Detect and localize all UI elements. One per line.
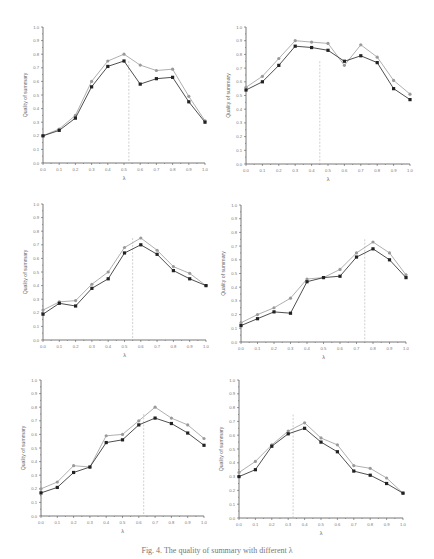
y-axis-label: Quality of summary: [220, 251, 226, 296]
x-tick-label: 0.4: [309, 168, 315, 173]
x-tick-label: 0.2: [276, 168, 282, 173]
square-marker: [385, 482, 388, 485]
series-lower-line: [241, 249, 406, 326]
y-tick-label: 0.7: [236, 66, 242, 71]
x-tick-label: 0.4: [304, 346, 310, 351]
square-marker: [105, 441, 108, 444]
circle-marker: [287, 429, 290, 432]
circle-marker: [155, 69, 158, 72]
series-upper-line: [43, 54, 205, 136]
y-tick-label: 0.5: [231, 271, 237, 276]
x-tick-label: 0.7: [351, 522, 357, 527]
x-tick-label: 0.6: [136, 520, 142, 525]
square-marker: [171, 76, 174, 79]
y-tick-label: 0.9: [33, 38, 39, 43]
square-marker: [170, 422, 173, 425]
x-tick-label: 0.0: [243, 168, 249, 173]
x-axis-label: λ: [320, 530, 323, 536]
square-marker: [256, 317, 259, 320]
x-tick-label: 0.2: [73, 344, 79, 349]
y-tick-label: 0.1: [236, 148, 242, 153]
x-tick-label: 0.3: [89, 167, 95, 172]
x-tick-label: 0.8: [170, 344, 176, 349]
square-marker: [90, 85, 93, 88]
x-tick-label: 0.3: [285, 522, 291, 527]
square-marker: [58, 129, 61, 132]
y-tick-label: 0.7: [33, 242, 39, 247]
circle-marker: [202, 437, 205, 440]
square-marker: [244, 88, 247, 91]
x-tick-label: 0.6: [138, 344, 144, 349]
square-marker: [319, 441, 322, 444]
circle-marker: [105, 434, 108, 437]
square-marker: [188, 277, 191, 280]
square-marker: [355, 255, 358, 258]
y-tick-label: 0.4: [33, 106, 39, 111]
square-marker: [106, 65, 109, 68]
circle-marker: [336, 443, 339, 446]
circle-marker: [294, 39, 297, 42]
x-tick-label: 0.5: [121, 167, 127, 172]
circle-marker: [106, 59, 109, 62]
circle-marker: [107, 270, 110, 273]
circle-marker: [90, 80, 93, 83]
y-tick-label: 1.0: [33, 25, 39, 30]
y-tick-label: 0.0: [229, 516, 235, 521]
square-marker: [270, 445, 273, 448]
square-marker: [401, 492, 404, 495]
square-marker: [139, 243, 142, 246]
x-tick-label: 0.9: [391, 168, 397, 173]
x-tick-label: 1.0: [400, 522, 406, 527]
square-marker: [303, 427, 306, 430]
x-tick-label: 0.7: [153, 167, 159, 172]
square-marker: [203, 121, 206, 124]
x-tick-label: 0.2: [269, 522, 275, 527]
x-tick-label: 1.0: [203, 344, 209, 349]
x-tick-label: 0.6: [334, 522, 340, 527]
x-tick-label: 0.8: [367, 522, 373, 527]
square-marker: [305, 280, 308, 283]
y-tick-label: 0.9: [33, 215, 39, 220]
circle-marker: [186, 423, 189, 426]
square-marker: [88, 465, 91, 468]
y-tick-label: 0.3: [33, 297, 39, 302]
circle-marker: [369, 467, 372, 470]
circle-marker: [272, 306, 275, 309]
y-axis-label: Quality of summary: [225, 73, 231, 118]
y-tick-label: 0.3: [231, 298, 237, 303]
y-tick-label: 0.0: [31, 514, 37, 519]
square-marker: [123, 251, 126, 254]
x-tick-label: 0.9: [186, 167, 192, 172]
square-marker: [392, 87, 395, 90]
series-lower-line: [41, 418, 204, 493]
y-tick-label: 1.0: [231, 203, 237, 208]
y-tick-label: 1.0: [229, 378, 235, 383]
x-tick-label: 0.9: [387, 346, 393, 351]
y-tick-label: 0.8: [33, 229, 39, 234]
y-tick-label: 1.0: [236, 25, 242, 30]
square-marker: [336, 450, 339, 453]
y-tick-label: 0.7: [33, 65, 39, 70]
square-marker: [239, 324, 242, 327]
square-marker: [121, 438, 124, 441]
y-tick-label: 0.8: [231, 230, 237, 235]
x-tick-label: 0.4: [105, 167, 111, 172]
square-marker: [376, 61, 379, 64]
x-tick-label: 1.0: [407, 168, 413, 173]
circle-marker: [137, 419, 140, 422]
square-marker: [369, 474, 372, 477]
y-tick-label: 0.7: [31, 418, 37, 423]
square-marker: [187, 100, 190, 103]
y-tick-label: 0.1: [231, 326, 237, 331]
y-tick-label: 0.4: [229, 460, 235, 465]
y-tick-label: 0.5: [236, 93, 242, 98]
y-tick-label: 0.1: [33, 324, 39, 329]
circle-marker: [352, 464, 355, 467]
y-tick-label: 0.1: [229, 502, 235, 507]
circle-marker: [289, 297, 292, 300]
y-tick-label: 0.7: [231, 244, 237, 249]
x-tick-label: 0.4: [302, 522, 308, 527]
x-tick-label: 1.0: [403, 346, 409, 351]
circle-marker: [90, 283, 93, 286]
square-marker: [352, 469, 355, 472]
